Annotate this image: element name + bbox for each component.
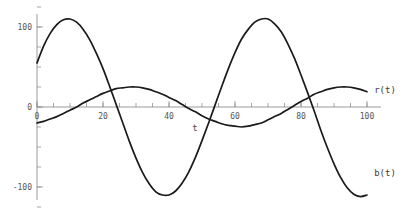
y-tick-label-100: 100 xyxy=(18,23,33,32)
y-tick-label-0: 0 xyxy=(27,103,32,112)
y-tick-label-neg100: -100 xyxy=(13,183,32,192)
x-axis-name: t xyxy=(192,123,197,133)
y-axis-ticks xyxy=(37,7,43,207)
plot-canvas: 100 0 -100 0 20 40 60 80 100 t r(t) b(t) xyxy=(0,0,403,210)
series-curve-b xyxy=(37,18,367,196)
x-tick-label-80: 80 xyxy=(296,112,306,121)
x-tick-label-20: 20 xyxy=(98,112,108,121)
x-tick-label-60: 60 xyxy=(230,112,240,121)
y-axis-tick-labels: 100 0 -100 xyxy=(13,23,32,192)
x-tick-label-0: 0 xyxy=(35,112,40,121)
function-plot: 100 0 -100 0 20 40 60 80 100 t r(t) b(t) xyxy=(0,0,403,210)
series-label-b: b(t) xyxy=(374,168,396,178)
series-label-r: r(t) xyxy=(374,85,396,95)
axes-group xyxy=(37,14,381,200)
x-tick-label-40: 40 xyxy=(164,112,174,121)
x-tick-label-100: 100 xyxy=(360,112,375,121)
